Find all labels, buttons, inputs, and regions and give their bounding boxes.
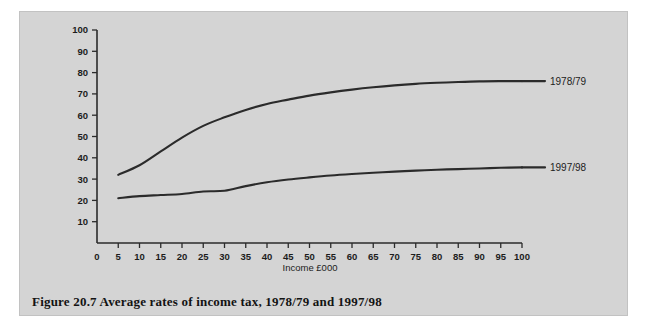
x-tick-label: 5 bbox=[116, 251, 122, 262]
x-tick-label: 25 bbox=[198, 251, 209, 262]
x-tick-label: 70 bbox=[389, 251, 400, 262]
y-tick-label: 100 bbox=[72, 24, 88, 35]
y-tick-label: 60 bbox=[77, 110, 88, 121]
x-axis-title: Income £000 bbox=[283, 262, 338, 273]
y-tick-label: 40 bbox=[77, 152, 88, 163]
axes bbox=[97, 30, 522, 243]
x-tick-label: 65 bbox=[368, 251, 379, 262]
series-line-1997-98 bbox=[118, 167, 522, 198]
figure-caption: Figure 20.7 Average rates of income tax,… bbox=[32, 294, 382, 310]
series-label-1978-79: 1978/79 bbox=[550, 76, 587, 87]
y-tick-label: 80 bbox=[77, 67, 88, 78]
x-tick-label: 0 bbox=[94, 251, 99, 262]
x-tick-label: 85 bbox=[453, 251, 464, 262]
y-axis-ticks: 102030405060708090100 bbox=[72, 24, 97, 227]
y-tick-label: 10 bbox=[77, 216, 88, 227]
y-tick-label: 70 bbox=[77, 88, 88, 99]
x-axis-ticks: 0510152025303540455055606570758085909510… bbox=[94, 243, 530, 262]
x-tick-label: 45 bbox=[283, 251, 294, 262]
x-tick-label: 75 bbox=[410, 251, 421, 262]
y-tick-label: 90 bbox=[77, 46, 88, 57]
series-line-1978-79 bbox=[118, 81, 522, 175]
x-tick-label: 20 bbox=[177, 251, 188, 262]
x-tick-label: 80 bbox=[432, 251, 443, 262]
chart-svg: 102030405060708090100 051015202530354045… bbox=[0, 0, 647, 327]
x-tick-label: 60 bbox=[347, 251, 358, 262]
series-labels: 1978/791997/98 bbox=[550, 76, 587, 173]
x-tick-label: 10 bbox=[134, 251, 145, 262]
x-tick-label: 15 bbox=[155, 251, 166, 262]
figure-container: 102030405060708090100 051015202530354045… bbox=[0, 0, 647, 327]
x-tick-label: 40 bbox=[262, 251, 273, 262]
x-tick-label: 30 bbox=[219, 251, 230, 262]
x-tick-label: 90 bbox=[474, 251, 485, 262]
series-label-1997-98: 1997/98 bbox=[550, 162, 587, 173]
x-tick-label: 95 bbox=[495, 251, 506, 262]
y-tick-label: 50 bbox=[77, 131, 88, 142]
series-lines bbox=[118, 81, 522, 198]
x-tick-label: 100 bbox=[514, 251, 530, 262]
caption-divider bbox=[20, 288, 627, 289]
x-tick-label: 35 bbox=[240, 251, 251, 262]
y-tick-label: 20 bbox=[77, 195, 88, 206]
x-tick-label: 55 bbox=[325, 251, 336, 262]
y-tick-label: 30 bbox=[77, 174, 88, 185]
x-tick-label: 50 bbox=[304, 251, 315, 262]
series-leader-lines bbox=[522, 81, 545, 167]
